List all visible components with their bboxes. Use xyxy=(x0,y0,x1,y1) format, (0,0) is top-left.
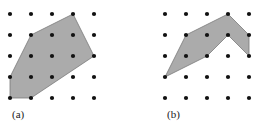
lattice-dot xyxy=(8,33,12,37)
lattice-dot xyxy=(205,33,209,37)
lattice-dot xyxy=(29,54,33,58)
lattice-dot xyxy=(247,75,251,79)
lattice-dot xyxy=(92,96,96,100)
lattice-dot xyxy=(50,33,54,37)
lattice-dot xyxy=(29,75,33,79)
lattice-dot xyxy=(205,96,209,100)
lattice-dot xyxy=(71,12,75,16)
lattice-dot xyxy=(226,75,230,79)
lattice-dot xyxy=(205,54,209,58)
lattice-dot xyxy=(92,12,96,16)
lattice-dot xyxy=(50,96,54,100)
lattice-dot xyxy=(163,96,167,100)
lattice-dot xyxy=(226,33,230,37)
lattice-dot xyxy=(205,75,209,79)
lattice-dot xyxy=(226,54,230,58)
lattice-dot xyxy=(184,33,188,37)
lattice-dot xyxy=(8,96,12,100)
lattice-dot xyxy=(247,12,251,16)
lattice-dot xyxy=(163,12,167,16)
lattice-dot xyxy=(247,54,251,58)
lattice-dot xyxy=(29,12,33,16)
figure-root: (a) (b) xyxy=(0,0,263,126)
lattice-dot xyxy=(71,33,75,37)
lattice-dot xyxy=(184,54,188,58)
lattice-dot xyxy=(50,75,54,79)
lattice-dot xyxy=(29,96,33,100)
lattice-dot xyxy=(8,54,12,58)
lattice-dot xyxy=(226,96,230,100)
lattice-dot xyxy=(92,54,96,58)
lattice-dot xyxy=(92,33,96,37)
lattice-dot xyxy=(205,12,209,16)
lattice-dot xyxy=(50,54,54,58)
lattice-dot xyxy=(8,75,12,79)
panel-a-caption: (a) xyxy=(12,108,25,121)
lattice-dot xyxy=(71,96,75,100)
lattice-dot xyxy=(92,75,96,79)
lattice-dot xyxy=(71,75,75,79)
lattice-dot xyxy=(163,54,167,58)
lattice-dot xyxy=(184,12,188,16)
lattice-dot xyxy=(184,75,188,79)
lattice-dot xyxy=(50,12,54,16)
lattice-dot xyxy=(163,75,167,79)
lattice-dot xyxy=(226,12,230,16)
lattice-dot xyxy=(163,33,167,37)
lattice-dot xyxy=(71,54,75,58)
lattice-dot xyxy=(184,96,188,100)
lattice-dot xyxy=(247,96,251,100)
panel-b-caption: (b) xyxy=(167,108,180,121)
lattice-dot xyxy=(29,33,33,37)
lattice-dot xyxy=(8,12,12,16)
lattice-polygon-figure: (a) (b) xyxy=(0,0,263,126)
lattice-dot xyxy=(247,33,251,37)
